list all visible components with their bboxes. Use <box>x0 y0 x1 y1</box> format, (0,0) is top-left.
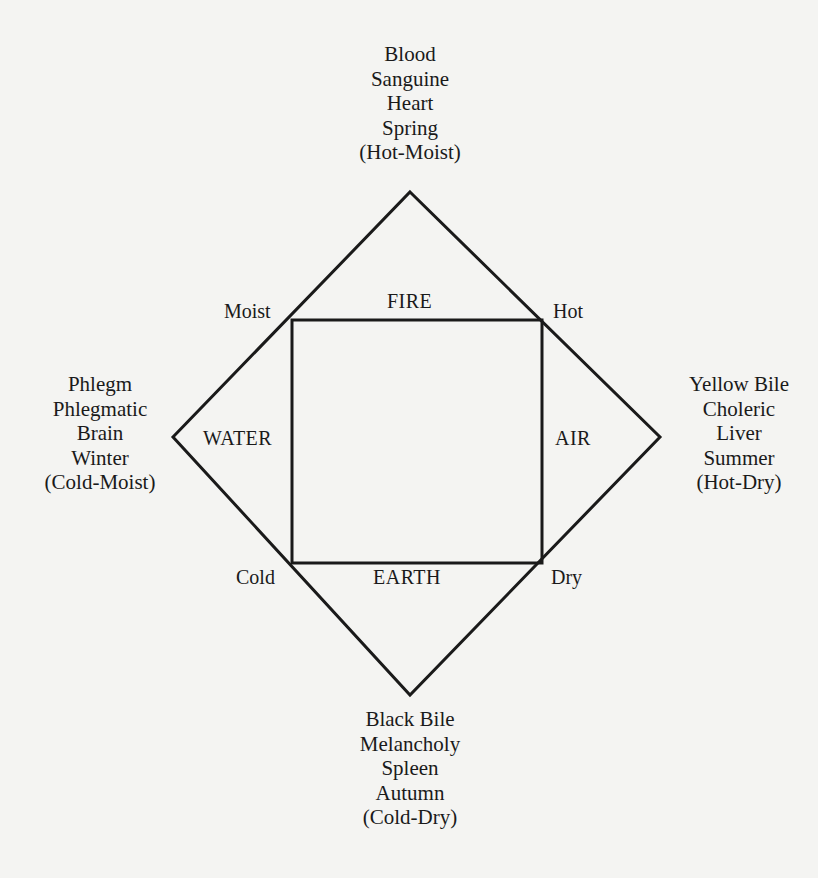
organ: Brain <box>20 421 180 446</box>
element-fire: FIRE <box>387 290 432 313</box>
quality-dry: Dry <box>551 566 582 589</box>
quality-cold: Cold <box>236 566 275 589</box>
temperament: Sanguine <box>310 67 510 92</box>
organ: Liver <box>660 421 818 446</box>
humor-name: Yellow Bile <box>660 372 818 397</box>
inner-square <box>292 320 542 563</box>
element-earth: EARTH <box>373 566 441 589</box>
humor-name: Blood <box>310 42 510 67</box>
temperament: Phlegmatic <box>20 397 180 422</box>
element-air: AIR <box>555 427 591 450</box>
organ: Spleen <box>310 756 510 781</box>
humor-blood-group: Blood Sanguine Heart Spring (Hot-Moist) <box>310 42 510 165</box>
humor-yellow-bile-group: Yellow Bile Choleric Liver Summer (Hot-D… <box>660 372 818 495</box>
quality-hot: Hot <box>553 300 583 323</box>
quality-moist: Moist <box>224 300 271 323</box>
season: Autumn <box>310 781 510 806</box>
season: Winter <box>20 446 180 471</box>
element-water: WATER <box>203 427 272 450</box>
qualities: (Cold-Moist) <box>20 470 180 495</box>
humor-black-bile-group: Black Bile Melancholy Spleen Autumn (Col… <box>310 707 510 830</box>
qualities: (Cold-Dry) <box>310 805 510 830</box>
qualities: (Hot-Moist) <box>310 140 510 165</box>
humor-phlegm-group: Phlegm Phlegmatic Brain Winter (Cold-Moi… <box>20 372 180 495</box>
temperament: Choleric <box>660 397 818 422</box>
humor-name: Black Bile <box>310 707 510 732</box>
organ: Heart <box>310 91 510 116</box>
temperament: Melancholy <box>310 732 510 757</box>
qualities: (Hot-Dry) <box>660 470 818 495</box>
season: Spring <box>310 116 510 141</box>
season: Summer <box>660 446 818 471</box>
humor-name: Phlegm <box>20 372 180 397</box>
